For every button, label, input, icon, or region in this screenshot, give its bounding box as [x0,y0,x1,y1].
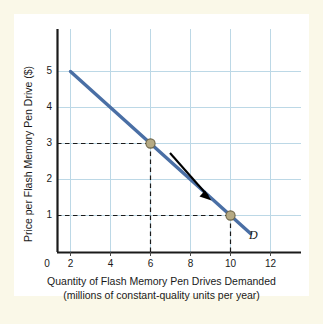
demand-curve [71,72,251,234]
x-tick-label-6: 6 [141,258,161,269]
figure-container: 5 4 3 2 1 0 2 4 6 8 10 12 D Price per Fl… [0,0,323,324]
y-tick-label-1: 1 [38,209,52,220]
data-point-6-3 [146,139,155,148]
axes [57,29,301,253]
y-tick-label-4: 4 [38,101,52,112]
x-axis-title-line1: Quantity of Flash Memory Pen Drives Dema… [0,274,323,288]
x-axis-title: Quantity of Flash Memory Pen Drives Dema… [0,274,323,302]
x-tick-label-2: 2 [61,258,81,269]
y-tick-label-2: 2 [38,173,52,184]
x-tick-label-10: 10 [221,258,241,269]
x-tick-label-0: 0 [37,258,57,269]
x-tick-label-4: 4 [101,258,121,269]
data-point-10-1 [226,211,235,220]
grid-vertical [71,29,271,252]
y-tick-label-5: 5 [38,65,52,76]
x-axis-title-line2: (millions of constant-quality units per … [0,288,323,302]
y-axis-title: Price per Flash Memory Pen Drive ($) [22,54,34,254]
demand-curve-label: D [249,228,258,243]
x-tick-label-12: 12 [261,258,281,269]
y-tick-label-3: 3 [38,137,52,148]
x-tick-label-8: 8 [181,258,201,269]
